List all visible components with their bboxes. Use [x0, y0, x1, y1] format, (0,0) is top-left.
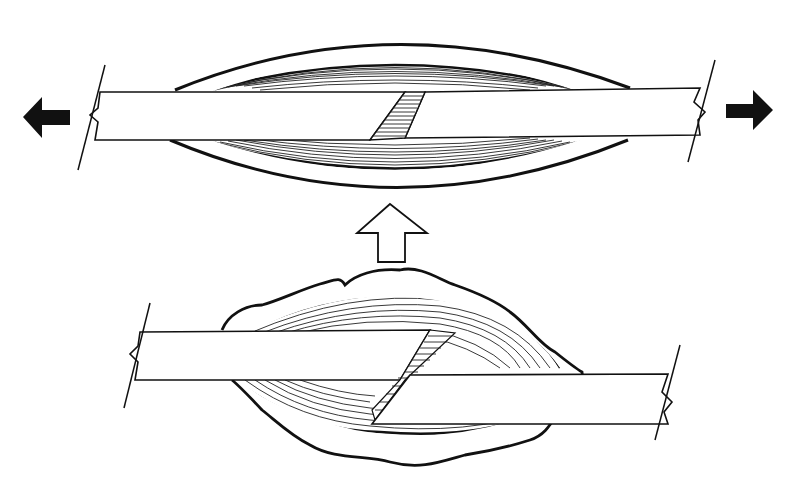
figure-canvas: [0, 0, 791, 490]
top-right-bone: [405, 88, 705, 138]
arrow-right-icon: [726, 90, 773, 130]
top-left-bone: [90, 92, 405, 140]
arrow-up-outline-icon: [357, 204, 427, 262]
bottom-panel: [124, 269, 680, 465]
arrow-left-icon: [23, 97, 70, 138]
fracture-healing-diagram: [0, 0, 791, 490]
cropped-caption: [270, 0, 520, 6]
bottom-left-bone: [130, 330, 430, 380]
bottom-right-bone: [372, 374, 672, 424]
top-panel: [23, 44, 773, 187]
